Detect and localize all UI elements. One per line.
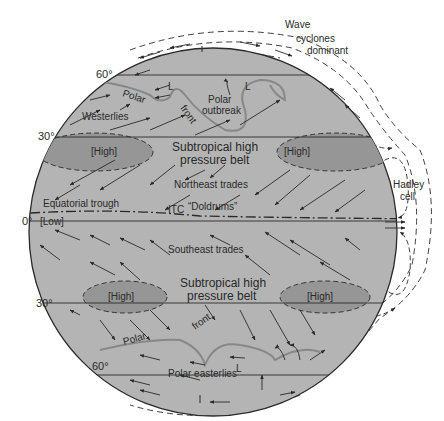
lat-label-0: 0° [22,215,33,227]
label-high-nw: [High] [91,146,117,157]
lat-label-30s: 30° [36,297,53,309]
lat-label-60s: 60° [92,360,109,372]
label-wave: Wave [285,19,311,30]
label-high-sw: [High] [108,291,134,302]
label-subtropical-s-1: Subtropical high [180,276,266,290]
label-hadley: Hadley [393,179,424,190]
label-doldrums: “Doldrums” [188,201,237,212]
label-low-l-2: L [245,81,251,92]
label-cell: cell [400,191,415,202]
label-high-ne: [High] [284,146,310,157]
atmospheric-circulation-diagram: 60° 30° 0° 30° 60° Wave cyclones dominan… [0,0,444,421]
label-high-se: [High] [307,291,333,302]
label-subtropical-s-2: pressure belt [187,289,257,303]
label-westerlies: Westerlies [82,111,129,122]
label-dominant: dominant [307,45,348,56]
label-cyclones: cyclones [296,33,335,44]
label-ne-trades: Northeast trades [174,179,248,190]
lat-label-30n: 30° [38,130,55,142]
label-se-trades: Southeast trades [168,244,244,255]
label-polar-outbreak-2: outbreak [202,105,242,116]
label-equatorial-trough: Equatorial trough [43,198,119,209]
label-itc: ITC [168,204,184,215]
label-low-eq: [Low] [40,216,64,227]
label-polar-easterlies: Polar easterlies [168,368,237,379]
lat-label-60n: 60° [96,68,113,80]
label-low-l-1: L [168,81,174,92]
label-subtropical-n-1: Subtropical high [172,140,258,154]
label-polar-outbreak-1: Polar [208,94,232,105]
label-subtropical-n-2: pressure belt [180,153,250,167]
